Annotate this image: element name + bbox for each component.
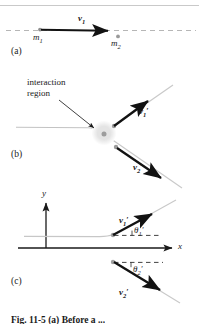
label-m2: m2 <box>111 39 121 51</box>
axis-label-y: y <box>42 189 46 198</box>
panel-tag-c: (c) <box>11 277 22 287</box>
interaction-region-label-line1: interaction <box>27 78 65 87</box>
label-theta2-prime: θ2′ <box>133 265 142 277</box>
interaction-region-pointer <box>59 100 94 128</box>
panel-tag-b: (b) <box>11 150 22 160</box>
panel-tag-a: (a) <box>11 47 22 57</box>
outgoing-guide-lower-b <box>104 134 182 188</box>
label-v2-prime-b: v2′ <box>133 163 143 175</box>
label-v1: v1 <box>78 14 85 26</box>
incoming-trajectory-c <box>24 235 113 237</box>
vector-v1-arrow <box>41 30 108 31</box>
axis-label-x: x <box>178 242 182 251</box>
label-v2-prime-c: v2′ <box>119 288 129 300</box>
interaction-region-label-line2: region <box>27 89 50 98</box>
label-theta1-prime: θ1′ <box>134 226 143 238</box>
incoming-trajectory-b <box>16 127 104 134</box>
label-v1-prime-b: v1′ <box>139 107 149 119</box>
figure-caption: Fig. 11-5 (a) Before a ... <box>11 315 105 324</box>
panel-c-group <box>18 200 180 303</box>
label-v1-prime-c: v1′ <box>119 216 129 228</box>
label-m1: m1 <box>33 33 43 45</box>
panel-b-group <box>16 85 182 188</box>
collision-figure <box>0 0 199 324</box>
particle-dot-center-b <box>102 132 107 137</box>
